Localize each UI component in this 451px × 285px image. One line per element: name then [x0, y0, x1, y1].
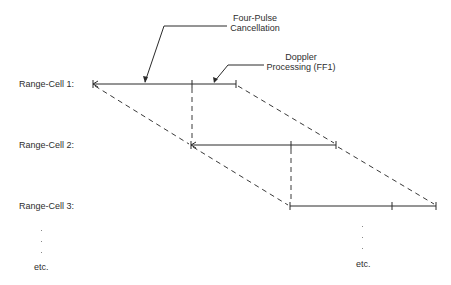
range-cell-2-label: Range-Cell 2:	[19, 140, 74, 150]
four-pulse-cancellation-label: Four-Pulse Cancellation	[226, 13, 284, 33]
four-pulse-line1: Four-Pulse	[226, 13, 284, 23]
doppler-processing-label: Doppler Processing (FF1)	[264, 52, 338, 72]
continuation-dots-left	[41, 230, 43, 263]
doppler-line2: Processing (FF1)	[264, 62, 338, 72]
range-cell-1-label: Range-Cell 1:	[19, 79, 74, 89]
doppler-callout-leader	[213, 65, 264, 83]
etc-right-label: etc.	[356, 259, 371, 269]
continuation-dots-right	[362, 226, 364, 259]
four-pulse-callout-leader	[143, 26, 227, 83]
doppler-line1: Doppler	[264, 52, 338, 62]
etc-left-label: etc.	[34, 262, 49, 272]
range-cell-3-timeline	[290, 202, 436, 210]
range-cell-2-timeline	[191, 141, 336, 149]
range-cell-3-label: Range-Cell 3:	[19, 201, 74, 211]
four-pulse-line2: Cancellation	[226, 23, 284, 33]
